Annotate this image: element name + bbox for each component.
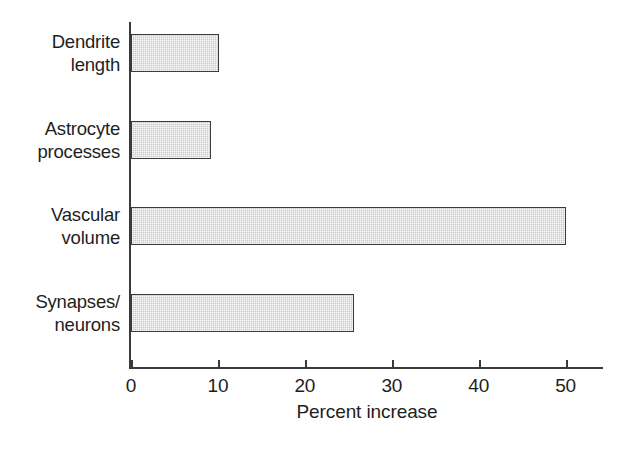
tick-label: 0 xyxy=(126,375,136,397)
bar xyxy=(131,294,354,332)
tick-label: 30 xyxy=(381,375,402,397)
tick-mark xyxy=(218,360,220,369)
category-label: Astrocyteprocesses xyxy=(0,117,120,163)
category-labels: DendritelengthAstrocyteprocessesVascular… xyxy=(0,22,120,368)
x-axis-title: Percent increase xyxy=(131,400,603,423)
bar-row xyxy=(131,207,603,245)
bar-chart: DendritelengthAstrocyteprocessesVascular… xyxy=(0,0,639,453)
bar xyxy=(131,207,566,245)
bar-row xyxy=(131,294,603,332)
bar-row xyxy=(131,121,603,159)
tick-mark xyxy=(392,360,394,369)
bar xyxy=(131,34,219,72)
bar xyxy=(131,121,211,159)
tick-label: 40 xyxy=(468,375,489,397)
tick-mark xyxy=(566,360,568,369)
category-label: Dendritelength xyxy=(0,30,120,76)
category-label: Synapses/neurons xyxy=(0,290,120,336)
tick-mark xyxy=(131,360,133,369)
tick-mark xyxy=(479,360,481,369)
tick-mark xyxy=(305,360,307,369)
tick-label: 20 xyxy=(294,375,315,397)
bar-row xyxy=(131,34,603,72)
tick-label: 10 xyxy=(208,375,229,397)
tick-label: 50 xyxy=(555,375,576,397)
plot-area xyxy=(131,22,603,368)
category-label: Vascularvolume xyxy=(0,203,120,249)
